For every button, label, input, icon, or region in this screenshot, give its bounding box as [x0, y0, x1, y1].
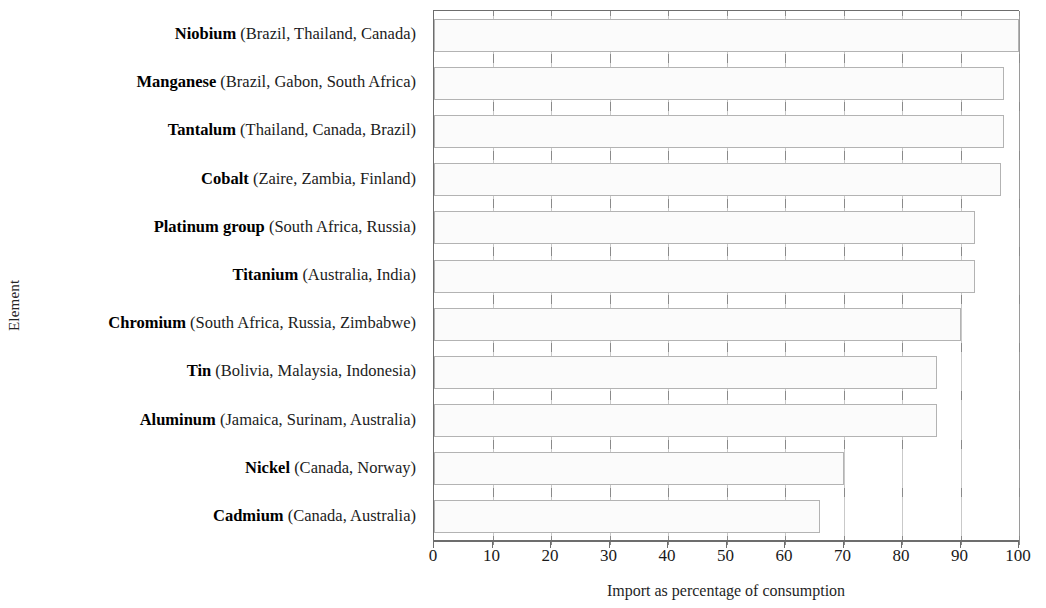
plot-inner: [434, 11, 1019, 541]
bar: [434, 404, 937, 437]
category-label: Tin (Bolivia, Malaysia, Indonesia): [187, 361, 416, 381]
inner-tick: [493, 343, 494, 352]
inner-tick: [551, 391, 552, 400]
inner-tick: [551, 488, 552, 497]
x-tick-label-40: 40: [637, 546, 697, 566]
inner-tick: [785, 391, 786, 400]
inner-tick: [785, 295, 786, 304]
inner-tick: [610, 391, 611, 400]
inner-tick: [727, 440, 728, 449]
inner-tick: [902, 343, 903, 352]
inner-tick: [785, 343, 786, 352]
inner-tick: [551, 54, 552, 63]
inner-tick: [1019, 295, 1020, 304]
inner-tick: [610, 247, 611, 256]
element-name: Tantalum: [168, 120, 236, 139]
inner-tick: [785, 488, 786, 497]
inner-tick: [961, 102, 962, 111]
inner-tick: [785, 102, 786, 111]
inner-tick: [727, 391, 728, 400]
element-name: Niobium: [175, 24, 236, 43]
x-tick-label-30: 30: [579, 546, 639, 566]
category-label: Nickel (Canada, Norway): [245, 458, 416, 478]
element-countries: (South Africa, Russia): [269, 217, 416, 236]
inner-tick: [902, 11, 903, 16]
inner-tick: [493, 199, 494, 208]
inner-tick: [551, 440, 552, 449]
inner-tick: [493, 54, 494, 63]
element-name: Cobalt: [201, 169, 249, 188]
category-label: Cadmium (Canada, Australia): [213, 506, 416, 526]
element-name: Cadmium: [213, 506, 284, 525]
inner-tick: [610, 151, 611, 160]
bar: [434, 500, 820, 533]
inner-tick: [493, 247, 494, 256]
category-label: Aluminum (Jamaica, Surinam, Australia): [140, 410, 416, 430]
inner-tick: [610, 295, 611, 304]
element-countries: (South Africa, Russia, Zimbabwe): [190, 313, 416, 332]
element-countries: (Bolivia, Malaysia, Indonesia): [215, 361, 416, 380]
bar: [434, 260, 975, 293]
inner-tick: [610, 11, 611, 16]
category-label-column: Niobium (Brazil, Thailand, Canada)Mangan…: [0, 10, 423, 540]
inner-tick: [727, 102, 728, 111]
inner-tick: [785, 440, 786, 449]
x-axis-title: Import as percentage of consumption: [433, 582, 1019, 600]
element-name: Chromium: [108, 313, 186, 332]
inner-tick: [902, 54, 903, 63]
element-countries: (Brazil, Thailand, Canada): [240, 24, 416, 43]
element-countries: (Zaire, Zambia, Finland): [253, 169, 416, 188]
inner-tick: [844, 391, 845, 400]
inner-tick: [610, 440, 611, 449]
inner-tick: [727, 295, 728, 304]
inner-tick: [610, 54, 611, 63]
inner-tick: [727, 488, 728, 497]
bar: [434, 356, 937, 389]
element-name: Tin: [187, 361, 211, 380]
inner-tick: [844, 295, 845, 304]
inner-tick: [844, 151, 845, 160]
inner-tick: [551, 343, 552, 352]
inner-tick: [902, 295, 903, 304]
inner-tick: [668, 11, 669, 16]
inner-tick: [551, 102, 552, 111]
x-tick-label-60: 60: [754, 546, 814, 566]
inner-tick: [961, 391, 962, 400]
inner-tick: [551, 295, 552, 304]
inner-tick: [551, 247, 552, 256]
inner-tick: [961, 440, 962, 449]
category-label: Tantalum (Thailand, Canada, Brazil): [168, 120, 416, 140]
inner-tick: [551, 151, 552, 160]
inner-tick: [493, 295, 494, 304]
plot-area: [433, 10, 1019, 541]
x-tick-label-90: 90: [930, 546, 990, 566]
inner-tick: [902, 488, 903, 497]
bar: [434, 19, 1019, 52]
inner-tick: [844, 11, 845, 16]
inner-tick: [961, 54, 962, 63]
inner-tick: [727, 151, 728, 160]
inner-tick: [1019, 11, 1020, 16]
inner-tick: [902, 247, 903, 256]
inner-tick: [1019, 199, 1020, 208]
inner-tick: [493, 151, 494, 160]
inner-tick: [668, 440, 669, 449]
inner-tick: [1019, 247, 1020, 256]
inner-tick: [727, 54, 728, 63]
inner-tick: [961, 11, 962, 16]
inner-tick: [668, 247, 669, 256]
x-tick-label-70: 70: [813, 546, 873, 566]
inner-tick: [1019, 391, 1020, 400]
inner-tick: [844, 247, 845, 256]
inner-tick: [902, 151, 903, 160]
bar: [434, 452, 844, 485]
gridline-100: [1019, 11, 1020, 541]
element-countries: (Thailand, Canada, Brazil): [240, 120, 416, 139]
inner-tick: [668, 295, 669, 304]
x-tick-label-100: 100: [988, 546, 1046, 566]
inner-tick: [902, 391, 903, 400]
category-label: Chromium (South Africa, Russia, Zimbabwe…: [108, 313, 416, 333]
inner-tick: [727, 247, 728, 256]
inner-tick: [844, 199, 845, 208]
inner-tick: [844, 440, 845, 449]
